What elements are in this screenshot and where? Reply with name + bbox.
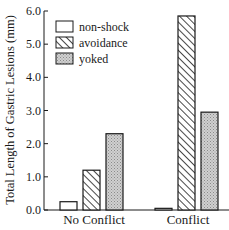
bar-chart: Total Length of Gastric Lesions (mm) 0.0… [0,0,229,230]
y-tick-label: 4.0 [26,70,41,84]
legend-label: yoked [79,52,108,66]
bar-non-shock-no-conflict [60,202,77,210]
category-labels: No ConflictConflict [63,212,210,227]
legend-swatch-yoked [56,53,73,64]
category-label: No Conflict [63,212,125,227]
legend-swatch-non-shock [56,21,73,32]
y-tick-label: 6.0 [26,4,41,18]
y-tick-label: 0.0 [26,203,41,217]
y-tick-label: 2.0 [26,137,41,151]
y-tick-label: 5.0 [26,37,41,51]
legend: non-shockavoidanceyoked [56,20,129,66]
legend-label: avoidance [79,36,128,50]
bar-yoked-conflict [201,112,218,210]
legend-label: non-shock [79,20,129,34]
legend-swatch-avoidance [56,37,73,48]
bar-non-shock-conflict [155,208,172,210]
y-tick-label: 3.0 [26,104,41,118]
bar-avoidance-conflict [178,16,195,210]
category-label: Conflict [167,212,210,227]
bar-yoked-no-conflict [106,134,123,210]
y-axis-label: Total Length of Gastric Lesions (mm) [3,15,17,205]
bar-avoidance-no-conflict [83,170,100,210]
y-tick-label: 1.0 [26,170,41,184]
y-ticks: 0.01.02.03.04.05.06.0 [26,4,48,217]
